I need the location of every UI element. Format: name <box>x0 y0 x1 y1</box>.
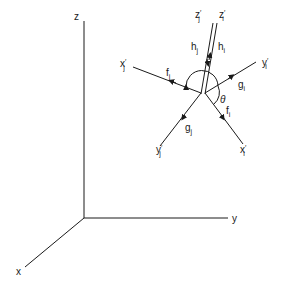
fj-label: fj <box>166 67 171 81</box>
hi-label: hi <box>218 41 226 54</box>
y-prime-j-label: y′j <box>156 144 163 158</box>
theta-arc-icon <box>214 86 219 104</box>
y-prime-j-axis <box>160 93 201 146</box>
x-prime-j-label: x′j <box>120 58 127 72</box>
fi-label: fi <box>226 105 231 118</box>
y-axis-label: y <box>232 213 237 224</box>
z-prime-i-label: z′i <box>219 9 226 22</box>
theta-label: θ <box>220 94 226 105</box>
hj-arrow-icon <box>209 55 210 60</box>
y-prime-i-label: y′i <box>262 57 269 70</box>
gi-label: gi <box>238 79 246 92</box>
gj-label: gj <box>185 122 193 136</box>
hj-label: hj <box>191 41 199 55</box>
frame-diagram: z y x z′j z′i x′j y′i y′j x′i hj hi fj g… <box>0 0 285 285</box>
diagram-canvas: z y x z′j z′i x′j y′i y′j x′i hj hi fj g… <box>0 0 285 285</box>
hi-arrow-icon <box>207 59 208 64</box>
x-prime-i-label: x′i <box>240 144 247 157</box>
z-prime-j-label: z′j <box>195 9 202 23</box>
rotation-arc-icon <box>186 70 218 87</box>
x-axis-label: x <box>16 266 21 277</box>
x-axis <box>25 218 84 267</box>
z-axis-label: z <box>74 11 79 22</box>
